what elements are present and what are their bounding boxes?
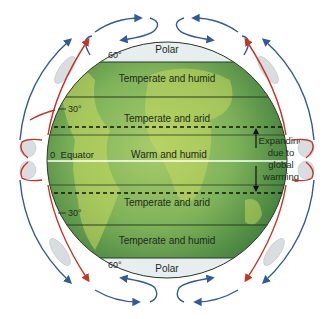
label-zone-warm-humid: Warm and humid bbox=[131, 149, 207, 160]
label-expanding-1: Expanding bbox=[259, 135, 304, 146]
label-expanding-2: due to bbox=[268, 147, 294, 158]
label-polar-top: Polar bbox=[155, 44, 179, 55]
label-zone-temperate-arid-n: Temperate and arid bbox=[124, 113, 210, 124]
label-zone-temperate-arid-s: Temperate and arid bbox=[124, 197, 210, 208]
label-30-top: 30° bbox=[68, 104, 82, 114]
label-zone-temperate-humid-n: Temperate and humid bbox=[119, 73, 216, 84]
label-60-bottom: 60° bbox=[108, 260, 122, 270]
label-30-bottom: 30° bbox=[68, 208, 82, 218]
label-zone-temperate-humid-s: Temperate and humid bbox=[119, 235, 216, 246]
label-equator: 0 Equator bbox=[50, 149, 94, 160]
label-expanding-3: global bbox=[268, 159, 293, 170]
label-polar-bottom: Polar bbox=[155, 263, 179, 274]
label-60-top: 60° bbox=[108, 50, 122, 60]
atmospheric-circulation-diagram: Polar 60° Temperate and humid 30° Temper… bbox=[0, 0, 334, 319]
